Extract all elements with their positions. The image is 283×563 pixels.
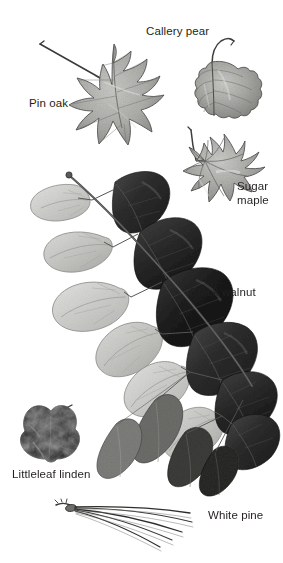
label-black-walnut: Black walnut bbox=[190, 286, 256, 300]
label-callery-pear: Callery pear bbox=[146, 25, 209, 39]
pin-oak-specimen bbox=[40, 41, 164, 145]
label-pin-oak: Pin oak bbox=[29, 97, 68, 111]
label-sugar-maple: Sugar maple bbox=[237, 180, 269, 207]
label-white-pine: White pine bbox=[208, 509, 263, 523]
white-pine-specimen bbox=[55, 499, 193, 551]
littleleaf-linden-specimen bbox=[21, 405, 80, 462]
label-littleleaf-linden: Littleleaf linden bbox=[12, 468, 90, 482]
callery-pear-specimen bbox=[195, 39, 262, 118]
leaf-identification-plate: Callery pear Pin oak Sugar maple Black w… bbox=[0, 0, 283, 563]
